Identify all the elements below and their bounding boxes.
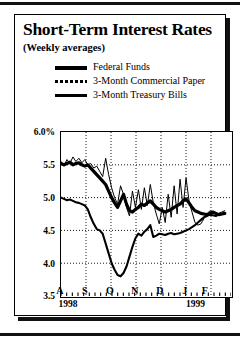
legend-label-federal-funds: Federal Funds: [93, 61, 150, 72]
legend-swatch-federal-funds: [55, 66, 87, 70]
chart-panel: Short-Term Interest Rates (Weekly averag…: [14, 14, 226, 316]
y-axis-tick-4: 4.0: [43, 259, 55, 269]
legend-swatch-commercial-paper: [55, 80, 87, 83]
x-axis-tick-2: O: [106, 285, 114, 296]
plot-svg: [61, 132, 231, 296]
x-axis-year-1999: 1999: [186, 299, 205, 309]
legend-swatch-treasury-bills: [55, 94, 87, 97]
chart-figure: Short-Term Interest Rates (Weekly averag…: [0, 0, 240, 356]
x-axis-tick-6: F: [202, 285, 208, 296]
x-axis-tick-4: D: [156, 285, 163, 296]
panel-shadow-bottom: [18, 317, 228, 321]
y-axis-tick-0: 6.0%: [34, 127, 55, 137]
y-axis-tick-5: 3.5: [43, 291, 55, 301]
y-axis-labels: 6.0%5.55.04.54.03.5: [15, 125, 57, 305]
legend-label-commercial-paper: 3-Month Commercial Paper: [93, 75, 205, 86]
y-axis-tick-1: 5.5: [43, 160, 55, 170]
chart-title: Short-Term Interest Rates: [23, 19, 212, 40]
y-axis-tick-3: 4.5: [43, 226, 55, 236]
legend-item-federal-funds: Federal Funds: [55, 61, 225, 74]
x-axis-tick-3: N: [131, 285, 138, 296]
chart-subtitle: (Weekly averages): [23, 42, 105, 53]
bottom-rule: [0, 333, 240, 336]
legend-item-commercial-paper: 3-Month Commercial Paper: [55, 75, 225, 88]
top-rule: [0, 2, 240, 5]
x-axis-year-1998: 1998: [59, 299, 78, 309]
x-axis-tick-0: A: [56, 285, 63, 296]
y-axis-tick-2: 5.0: [43, 193, 55, 203]
legend-label-treasury-bills: 3-Month Treasury Bills: [93, 89, 187, 100]
x-axis-tick-1: S: [82, 285, 88, 296]
plot-area: [60, 131, 233, 298]
chart-legend: Federal Funds 3-Month Commercial Paper 3…: [55, 61, 225, 103]
legend-item-treasury-bills: 3-Month Treasury Bills: [55, 89, 225, 102]
x-axis-tick-5: J: [182, 285, 187, 296]
